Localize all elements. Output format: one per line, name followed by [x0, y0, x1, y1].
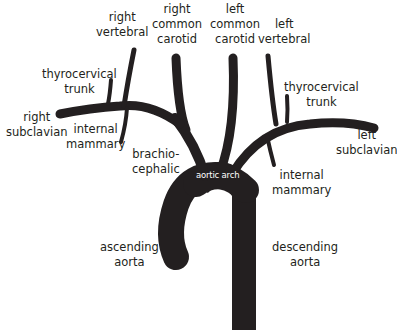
label-ascending-aorta: ascending aorta	[100, 240, 159, 270]
label-line: right	[96, 10, 148, 25]
label-line: common	[210, 17, 260, 32]
label-line: aorta	[100, 255, 159, 270]
label-right-thyrocervical-trunk: thyrocervical trunk	[42, 67, 117, 97]
label-line: aorta	[272, 255, 338, 270]
label-line: left	[210, 2, 260, 17]
label-line: internal	[66, 122, 125, 137]
label-line: subclavian	[336, 143, 397, 158]
label-right-common-carotid: right common carotid	[152, 2, 202, 47]
label-left-internal-mammary: internal mammary	[272, 168, 331, 198]
label-line: vertebral	[258, 32, 310, 47]
label-line: ascending	[100, 240, 159, 255]
label-line: left	[336, 128, 397, 143]
left-common-carotid-vessel	[220, 58, 233, 172]
label-right-vertebral: right vertebral	[96, 10, 148, 40]
right-vertebral-vessel	[124, 50, 134, 106]
label-left-thyrocervical-trunk: thyrocervical trunk	[284, 80, 359, 110]
label-brachiocephalic: brachio- cephalic	[132, 147, 180, 177]
label-line: descending	[272, 240, 338, 255]
label-line: vertebral	[96, 25, 148, 40]
label-line: right	[6, 110, 67, 125]
label-line: trunk	[284, 95, 359, 110]
label-left-common-carotid: left common carotid	[210, 2, 260, 47]
label-line: brachio-	[132, 147, 180, 162]
label-left-subclavian: left subclavian	[336, 128, 397, 158]
label-line: right	[152, 2, 202, 17]
label-right-internal-mammary: internal mammary	[66, 122, 125, 152]
label-line: subclavian	[6, 125, 67, 140]
descending-aorta-end	[232, 300, 256, 330]
label-line: common	[152, 17, 202, 32]
label-line: thyrocervical	[42, 67, 117, 82]
left-vertebral-vessel	[268, 56, 276, 124]
label-line: mammary	[66, 137, 125, 152]
label-right-subclavian: right subclavian	[6, 110, 67, 140]
label-line: carotid	[210, 32, 260, 47]
label-line: carotid	[152, 32, 202, 47]
label-line: left	[258, 17, 310, 32]
label-left-vertebral: left vertebral	[258, 17, 310, 47]
label-descending-aorta: descending aorta	[272, 240, 338, 270]
label-line: internal	[272, 168, 331, 183]
label-line: thyrocervical	[284, 80, 359, 95]
label-aortic-arch: aortic arch	[196, 170, 239, 180]
label-line: cephalic	[132, 162, 180, 177]
label-line: mammary	[272, 183, 331, 198]
label-line: trunk	[42, 82, 117, 97]
